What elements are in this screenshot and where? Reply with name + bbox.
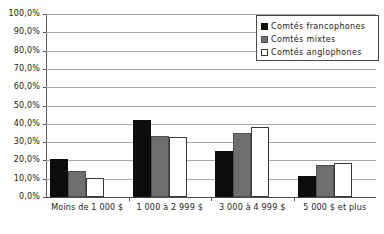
y-axis-tick-label: 30,0% (14, 138, 40, 146)
y-axis-tick-label: 90,0% (14, 28, 40, 36)
x-axis-tick-mark (211, 197, 212, 201)
y-axis-tick-label: 10,0% (14, 175, 40, 183)
x-axis-category-label: 3 000 à 4 999 $ (211, 203, 294, 213)
y-axis-tick-label: 50,0% (14, 102, 40, 110)
legend: Comtés francophonesComtés mixtesComtés a… (256, 15, 379, 61)
legend-item[interactable]: Comtés anglophones (261, 46, 374, 58)
bar (251, 127, 269, 197)
x-axis-tick-mark (129, 197, 130, 201)
bar (233, 133, 251, 197)
bar (68, 171, 86, 197)
legend-label: Comtés anglophones (271, 48, 362, 57)
y-axis-tick-label: 20,0% (14, 156, 40, 164)
legend-swatch-icon (261, 36, 268, 43)
bar-group (129, 14, 212, 197)
bar-group (46, 14, 129, 197)
bar (298, 176, 316, 197)
bar (316, 165, 334, 197)
x-axis-category-label: 1 000 à 2 999 $ (129, 203, 212, 213)
y-axis-tick-label: 70,0% (14, 65, 40, 73)
bar (86, 178, 104, 197)
x-axis-category-label: Moins de 1 000 $ (46, 203, 129, 213)
legend-item[interactable]: Comtés mixtes (261, 33, 374, 45)
bar (334, 163, 352, 197)
legend-swatch-icon (261, 49, 268, 56)
y-axis-tick-label: 100,0% (9, 10, 40, 18)
y-axis-tick-label: 0,0% (19, 193, 40, 201)
x-axis-tick-mark (294, 197, 295, 201)
legend-label: Comtés mixtes (271, 35, 336, 44)
legend-label: Comtés francophones (271, 22, 365, 31)
y-axis-tick-label: 40,0% (14, 120, 40, 128)
bar (215, 151, 233, 197)
bar (151, 136, 169, 197)
bar (169, 137, 187, 197)
y-axis: 100,0%90,0%80,0%70,0%60,0%50,0%40,0%30,0… (0, 0, 44, 234)
legend-swatch-icon (261, 23, 268, 30)
bar (133, 120, 151, 197)
bar-chart: 100,0%90,0%80,0%70,0%60,0%50,0%40,0%30,0… (0, 0, 384, 234)
y-axis-tick-label: 60,0% (14, 83, 40, 91)
x-axis-labels: Moins de 1 000 $1 000 à 2 999 $3 000 à 4… (46, 203, 376, 223)
y-axis-tick-label: 80,0% (14, 47, 40, 55)
x-axis-category-label: 5 000 $ et plus (294, 203, 377, 213)
bar (50, 159, 68, 197)
legend-item[interactable]: Comtés francophones (261, 20, 374, 32)
